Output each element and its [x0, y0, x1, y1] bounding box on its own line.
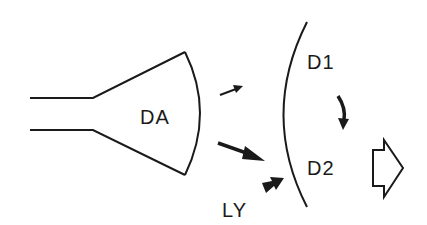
- barrier-arc: [284, 22, 308, 207]
- large-arrow-icon: [218, 143, 265, 161]
- d1-to-d2-arrow-icon: [338, 96, 349, 130]
- label-da: DA: [140, 106, 170, 128]
- output-arrow-icon: [373, 140, 403, 197]
- ly-arrow-icon: [262, 177, 284, 193]
- diagram-canvas: DA LY D1 D2: [0, 0, 427, 225]
- label-ly: LY: [222, 199, 247, 221]
- label-d2: D2: [307, 157, 335, 179]
- small-arrow-icon: [220, 85, 243, 95]
- label-d1: D1: [307, 51, 335, 73]
- funnel-shape: [30, 52, 200, 175]
